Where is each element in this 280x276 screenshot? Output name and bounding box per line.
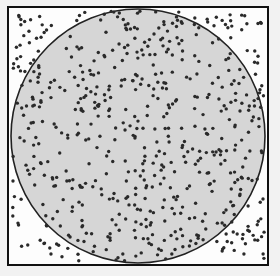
sample-point	[163, 219, 166, 222]
sample-point	[69, 35, 72, 38]
sample-point	[241, 233, 244, 236]
sample-point	[207, 171, 210, 174]
sample-point	[232, 79, 235, 82]
sample-point	[97, 51, 100, 54]
sample-point	[258, 88, 261, 91]
sample-point	[238, 68, 241, 71]
sample-point	[108, 232, 111, 235]
sample-point	[58, 86, 61, 89]
sample-point	[205, 132, 208, 135]
sample-point	[133, 203, 136, 206]
sample-point	[18, 136, 21, 139]
sample-point	[245, 93, 248, 96]
sample-point	[75, 19, 78, 22]
sample-point	[118, 213, 121, 216]
sample-point	[120, 78, 123, 81]
sample-point	[161, 86, 164, 89]
sample-point	[41, 23, 44, 26]
sample-point	[31, 97, 34, 100]
sample-point	[199, 157, 202, 160]
sample-point	[238, 109, 241, 112]
sample-point	[217, 97, 220, 100]
sample-point	[104, 31, 107, 34]
sample-point	[156, 253, 159, 256]
sample-point	[135, 127, 138, 130]
sample-point	[76, 84, 79, 87]
sample-point	[125, 28, 128, 31]
sample-point	[20, 245, 23, 248]
sample-point	[224, 232, 227, 235]
sample-point	[143, 159, 146, 162]
sample-point	[232, 230, 235, 233]
sample-point	[213, 153, 216, 156]
sample-point	[63, 89, 66, 92]
sample-point	[66, 136, 69, 139]
sample-point	[105, 248, 108, 251]
sample-point	[110, 218, 113, 221]
sample-point	[19, 197, 22, 200]
sample-point	[236, 178, 239, 181]
sample-point	[222, 246, 225, 249]
sample-point	[163, 152, 166, 155]
sample-point	[77, 47, 80, 50]
sample-point	[83, 11, 86, 14]
sample-point	[161, 44, 164, 47]
sample-point	[71, 178, 74, 181]
sample-point	[124, 197, 127, 200]
sample-point	[141, 53, 144, 56]
sample-point	[150, 243, 153, 246]
sample-point	[220, 109, 223, 112]
sample-point	[240, 102, 243, 105]
sample-point	[234, 92, 237, 95]
sample-point	[71, 205, 74, 208]
sample-point	[160, 71, 163, 74]
sample-point	[203, 127, 206, 130]
sample-point	[32, 167, 35, 170]
sample-point	[90, 232, 93, 235]
sample-point	[84, 138, 87, 141]
sample-point	[122, 121, 125, 124]
sample-point	[240, 28, 243, 31]
sample-point	[55, 242, 58, 245]
sample-point	[48, 86, 51, 89]
sample-point	[233, 213, 236, 216]
sample-point	[254, 73, 257, 76]
sample-point	[136, 119, 139, 122]
sample-point	[201, 113, 204, 116]
sample-point	[127, 203, 130, 206]
sample-point	[133, 37, 136, 40]
sample-point	[253, 104, 256, 107]
sample-point	[161, 206, 164, 209]
sample-point	[39, 239, 42, 242]
sample-point	[19, 23, 22, 26]
sample-point	[234, 143, 237, 146]
sample-point	[108, 107, 111, 110]
sample-point	[214, 150, 217, 153]
sample-point	[131, 79, 134, 82]
sample-point	[16, 221, 19, 224]
sample-point	[227, 69, 230, 72]
sample-point	[28, 172, 31, 175]
sample-point	[98, 135, 101, 138]
sample-point	[114, 126, 117, 129]
sample-point	[36, 76, 39, 79]
sample-point	[198, 150, 201, 153]
sample-point	[38, 105, 41, 108]
sample-point	[56, 210, 59, 213]
sample-point	[204, 212, 207, 215]
sample-point	[22, 34, 25, 37]
sample-point	[11, 179, 14, 182]
sample-point	[222, 104, 225, 107]
sample-point	[158, 150, 161, 153]
sample-point	[46, 160, 49, 163]
sample-point	[45, 224, 48, 227]
sample-point	[48, 246, 51, 249]
sample-point	[262, 94, 265, 97]
sample-point	[175, 15, 178, 18]
sample-point	[152, 211, 155, 214]
sample-point	[29, 79, 32, 82]
sample-point	[246, 204, 249, 207]
sample-point	[134, 220, 137, 223]
sample-point	[105, 154, 108, 157]
sample-point	[139, 83, 142, 86]
